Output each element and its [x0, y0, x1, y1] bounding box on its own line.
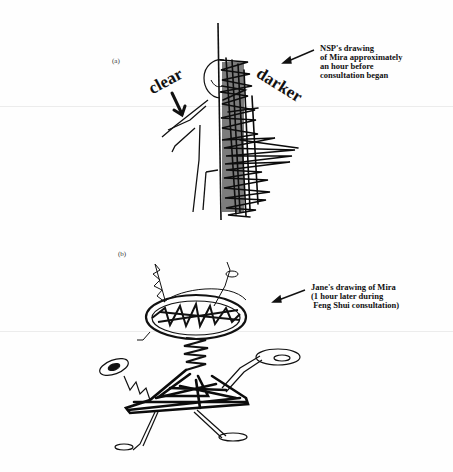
caption-b: Jane's drawing of Mira (1 hour later dur…: [311, 283, 399, 310]
drawing-mira-during: [0, 0, 453, 472]
